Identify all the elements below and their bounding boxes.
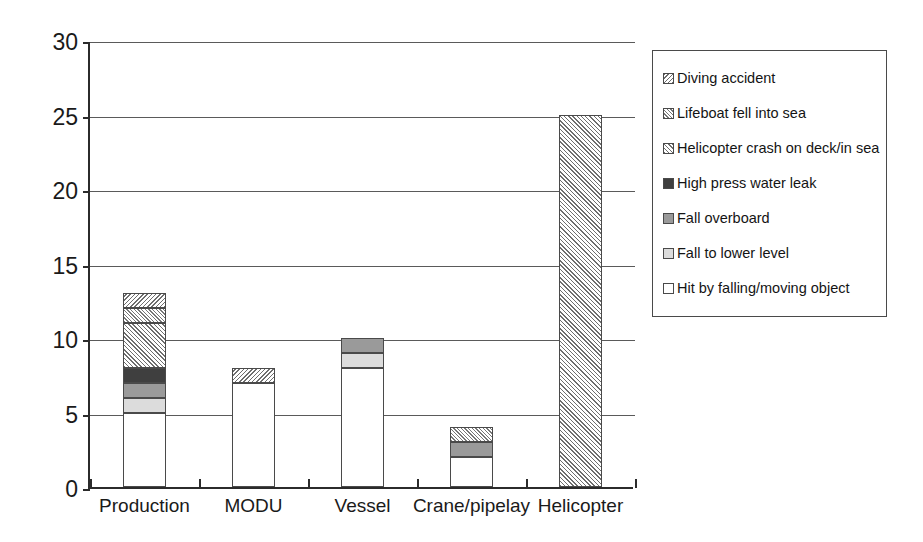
y-tick-label: 25 <box>52 105 78 128</box>
legend-item[interactable]: Fall to lower level <box>663 236 878 271</box>
legend-item-label: Fall to lower level <box>677 246 789 262</box>
bar-segment[interactable] <box>232 368 276 383</box>
x-tick-label: MODU <box>224 496 282 515</box>
plot-area: 051015202530 ProductionMODUVesselCrane/p… <box>88 42 633 489</box>
legend-item[interactable]: Lifeboat fell into sea <box>663 96 878 131</box>
y-tick-label: 0 <box>65 478 78 501</box>
x-tick-label: Production <box>99 496 190 515</box>
y-tick-mark <box>83 415 90 417</box>
bar-segment[interactable] <box>341 338 385 353</box>
y-tick-mark <box>83 340 90 342</box>
x-tick-mark <box>417 479 419 488</box>
legend-swatch-icon <box>663 143 674 154</box>
bar-segment[interactable] <box>232 383 276 487</box>
chart-legend: Diving accidentLifeboat fell into seaHel… <box>652 50 887 317</box>
legend-item[interactable]: High press water leak <box>663 166 878 201</box>
legend-item-label: High press water leak <box>677 176 816 192</box>
x-tick-label: Crane/pipelay <box>413 496 530 515</box>
x-tick-mark <box>199 479 201 488</box>
legend-item-label: Hit by falling/moving object <box>677 281 849 297</box>
bar-segment[interactable] <box>123 413 167 488</box>
bar-segment[interactable] <box>450 427 494 442</box>
legend-item-label: Diving accident <box>677 71 775 87</box>
bar-segment[interactable] <box>341 353 385 368</box>
bar-segment[interactable] <box>123 368 167 383</box>
y-tick-label: 5 <box>65 403 78 426</box>
legend-swatch-icon <box>663 283 674 294</box>
bar-stack[interactable] <box>450 427 494 487</box>
bar-segment[interactable] <box>123 323 167 368</box>
legend-swatch-icon <box>663 108 674 119</box>
bar-segment[interactable] <box>123 398 167 413</box>
gridline <box>90 117 635 118</box>
gridline <box>90 42 635 43</box>
y-tick-label: 15 <box>52 254 78 277</box>
bar-segment[interactable] <box>341 368 385 487</box>
y-tick-label: 20 <box>52 180 78 203</box>
y-tick-mark <box>83 42 90 44</box>
y-tick-mark <box>83 117 90 119</box>
legend-item[interactable]: Diving accident <box>663 61 878 96</box>
legend-item[interactable]: Fall overboard <box>663 201 878 236</box>
bar-stack[interactable] <box>559 115 603 488</box>
legend-swatch-icon <box>663 213 674 224</box>
bar-segment[interactable] <box>559 115 603 488</box>
legend-item-label: Lifeboat fell into sea <box>677 106 806 122</box>
gridline <box>90 266 635 267</box>
bar-segment[interactable] <box>123 308 167 323</box>
legend-item[interactable]: Hit by falling/moving object <box>663 271 878 306</box>
bar-segment[interactable] <box>450 457 494 487</box>
x-tick-mark <box>90 479 92 488</box>
gridline <box>90 191 635 192</box>
x-tick-label: Helicopter <box>538 496 624 515</box>
legend-item-label: Fall overboard <box>677 211 770 227</box>
stacked-bar-chart: 051015202530 ProductionMODUVesselCrane/p… <box>0 0 923 542</box>
legend-swatch-icon <box>663 178 674 189</box>
legend-swatch-icon <box>663 73 674 84</box>
legend-swatch-icon <box>663 248 674 259</box>
x-tick-label: Vessel <box>335 496 391 515</box>
x-tick-mark <box>635 479 637 488</box>
y-tick-mark <box>83 191 90 193</box>
bar-segment[interactable] <box>123 293 167 308</box>
bar-segment[interactable] <box>450 442 494 457</box>
legend-item-label: Helicopter crash on deck/in sea <box>677 141 879 157</box>
bar-stack[interactable] <box>123 293 167 487</box>
legend-item[interactable]: Helicopter crash on deck/in sea <box>663 131 878 166</box>
bar-stack[interactable] <box>341 338 385 487</box>
y-tick-mark <box>83 266 90 268</box>
y-tick-label: 10 <box>52 329 78 352</box>
bar-stack[interactable] <box>232 368 276 487</box>
y-tick-label: 30 <box>52 31 78 54</box>
x-tick-mark <box>308 479 310 488</box>
x-tick-mark <box>526 479 528 488</box>
y-tick-mark <box>83 489 90 491</box>
bar-segment[interactable] <box>123 383 167 398</box>
